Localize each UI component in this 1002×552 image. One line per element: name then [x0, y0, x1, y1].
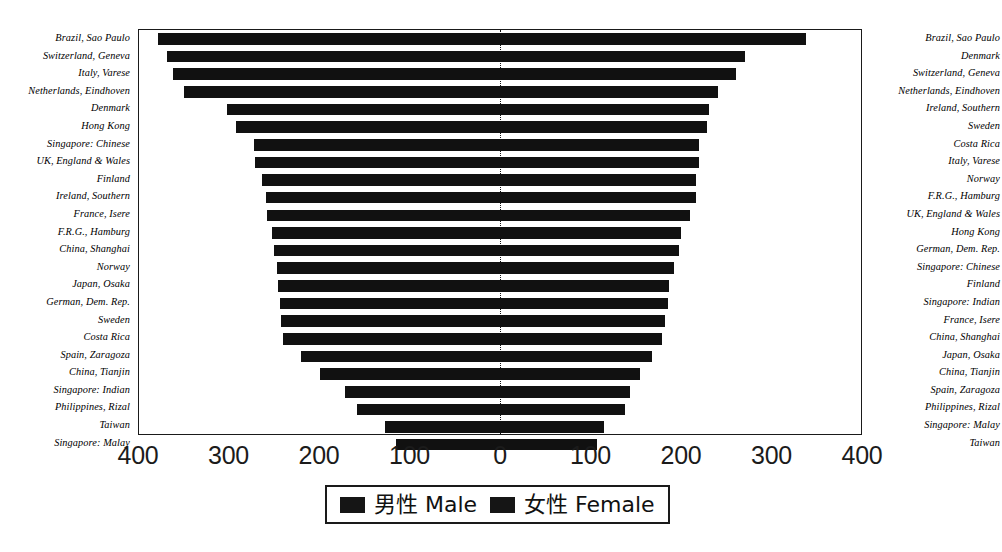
bar-female-12 — [500, 245, 679, 257]
right-axis-label-6: Costa Rica — [868, 135, 1002, 153]
bar-row — [139, 259, 861, 277]
bar-female-1 — [500, 51, 745, 63]
bar-female-17 — [500, 333, 662, 345]
bar-row — [139, 295, 861, 313]
x-tick-4: 0 — [493, 441, 507, 470]
bar-female-8 — [500, 174, 696, 186]
bar-female-19 — [500, 368, 640, 380]
right-axis-label-22: Singapore: Malay — [868, 416, 1002, 434]
legend-item-0: 男性 Male — [340, 494, 477, 516]
legend-swatch-1 — [490, 497, 515, 513]
left-axis-label-0: Brazil, Sao Paulo — [0, 29, 134, 47]
bar-female-18 — [500, 351, 652, 363]
bar-male-2 — [173, 68, 500, 80]
left-axis-label-2: Italy, Varese — [0, 64, 134, 82]
left-axis-label-10: France, Isere — [0, 205, 134, 223]
left-axis-label-14: Japan, Osaka — [0, 275, 134, 293]
bar-row — [139, 330, 861, 348]
bar-male-4 — [227, 104, 500, 116]
left-axis-label-1: Switzerland, Geneva — [0, 47, 134, 65]
bar-female-14 — [500, 280, 669, 292]
bar-male-13 — [277, 262, 500, 274]
bar-female-7 — [500, 157, 699, 169]
left-axis-label-19: China, Tianjin — [0, 363, 134, 381]
right-axis-label-23: Taiwan — [868, 434, 1002, 452]
bar-male-5 — [236, 121, 500, 133]
bar-row — [139, 206, 861, 224]
bar-male-16 — [281, 315, 500, 327]
bar-male-0 — [158, 33, 500, 45]
bar-male-9 — [266, 192, 500, 204]
right-axis-label-5: Sweden — [868, 117, 1002, 135]
bar-male-15 — [280, 298, 500, 310]
right-axis-label-11: Hong Kong — [868, 223, 1002, 241]
bar-female-10 — [500, 210, 690, 222]
left-axis-label-6: Singapore: Chinese — [0, 135, 134, 153]
bar-male-14 — [278, 280, 500, 292]
bar-row — [139, 242, 861, 260]
right-axis-label-3: Netherlands, Eindhoven — [868, 82, 1002, 100]
x-tick-6: 200 — [661, 441, 702, 470]
bar-female-15 — [500, 298, 668, 310]
left-axis-label-column: Brazil, Sao PauloSwitzerland, GenevaItal… — [0, 29, 134, 451]
bar-female-5 — [500, 121, 707, 133]
bar-male-7 — [255, 157, 500, 169]
left-axis-label-16: Sweden — [0, 311, 134, 329]
bar-row — [139, 277, 861, 295]
right-axis-label-8: Norway — [868, 170, 1002, 188]
right-axis-label-9: F.R.G., Hamburg — [868, 187, 1002, 205]
bar-female-16 — [500, 315, 665, 327]
x-tick-0: 400 — [118, 441, 159, 470]
bar-rows — [139, 30, 861, 453]
right-axis-label-18: Japan, Osaka — [868, 346, 1002, 364]
right-axis-label-19: China, Tianjin — [868, 363, 1002, 381]
bar-male-8 — [262, 174, 500, 186]
bar-male-21 — [357, 404, 500, 416]
x-tick-3: 100 — [389, 441, 430, 470]
left-axis-label-22: Taiwan — [0, 416, 134, 434]
x-axis-ticks: 4003002001000100200300400 — [138, 441, 862, 471]
bar-male-12 — [274, 245, 500, 257]
bar-male-10 — [267, 210, 500, 222]
bar-row — [139, 418, 861, 436]
bar-row — [139, 383, 861, 401]
x-tick-8: 400 — [842, 441, 883, 470]
left-axis-label-21: Philippines, Rizal — [0, 398, 134, 416]
left-axis-label-11: F.R.G., Hamburg — [0, 223, 134, 241]
left-axis-label-7: UK, England & Wales — [0, 152, 134, 170]
x-tick-1: 300 — [208, 441, 249, 470]
bar-male-3 — [184, 86, 500, 98]
right-axis-label-16: France, Isere — [868, 311, 1002, 329]
plot-area — [138, 29, 862, 435]
left-axis-label-23: Singapore: Malay — [0, 434, 134, 452]
left-axis-label-4: Denmark — [0, 99, 134, 117]
left-axis-label-9: Ireland, Southern — [0, 187, 134, 205]
bar-female-0 — [500, 33, 806, 45]
right-axis-label-20: Spain, Zaragoza — [868, 381, 1002, 399]
x-tick-5: 100 — [570, 441, 611, 470]
bar-female-22 — [500, 421, 604, 433]
bar-row — [139, 153, 861, 171]
left-axis-label-15: German, Dem. Rep. — [0, 293, 134, 311]
right-axis-label-column: Brazil, Sao PauloDenmarkSwitzerland, Gen… — [868, 29, 1002, 451]
left-axis-label-20: Singapore: Indian — [0, 381, 134, 399]
legend-swatch-0 — [340, 497, 365, 513]
bar-row — [139, 171, 861, 189]
right-axis-label-7: Italy, Varese — [868, 152, 1002, 170]
bar-row — [139, 136, 861, 154]
right-axis-label-15: Singapore: Indian — [868, 293, 1002, 311]
right-axis-label-10: UK, England & Wales — [868, 205, 1002, 223]
bar-female-13 — [500, 262, 674, 274]
bar-female-6 — [500, 139, 699, 151]
right-axis-label-17: China, Shanghai — [868, 328, 1002, 346]
bar-female-2 — [500, 68, 736, 80]
bar-row — [139, 48, 861, 66]
legend-label-1: 女性 Female — [524, 494, 655, 516]
right-axis-label-2: Switzerland, Geneva — [868, 64, 1002, 82]
bar-male-6 — [254, 139, 500, 151]
bar-row — [139, 400, 861, 418]
right-axis-label-21: Philippines, Rizal — [868, 398, 1002, 416]
bar-female-9 — [500, 192, 696, 204]
left-axis-label-17: Costa Rica — [0, 328, 134, 346]
bar-male-18 — [301, 351, 500, 363]
